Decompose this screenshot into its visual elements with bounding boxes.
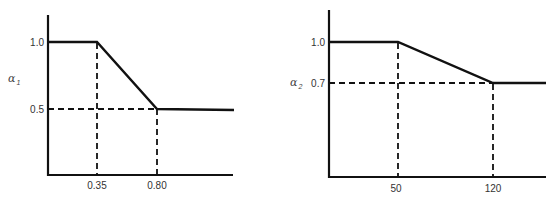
alpha1-curve (48, 42, 234, 110)
x-tick-120: 120 (485, 183, 502, 194)
x-tick-50: 50 (390, 183, 402, 194)
y-tick-0.5: 0.5 (30, 104, 44, 115)
y-tick-1.0: 1.0 (311, 37, 325, 48)
y-axis-label-alpha2: α2 (290, 76, 302, 90)
charts-canvas: 1.0 0.5 0.35 0.80 α1 1.0 0.7 50 120 α2 (0, 0, 553, 198)
chart-alpha2: 1.0 0.7 50 120 α2 (290, 10, 546, 194)
chart-alpha1: 1.0 0.5 0.35 0.80 α1 (8, 15, 234, 191)
y-tick-1.0: 1.0 (30, 37, 44, 48)
x-tick-0.80: 0.80 (147, 180, 167, 191)
alpha2-curve (329, 42, 546, 83)
x-tick-0.35: 0.35 (87, 180, 107, 191)
y-tick-0.7: 0.7 (311, 78, 325, 89)
y-axis-label-alpha1: α1 (8, 72, 20, 86)
